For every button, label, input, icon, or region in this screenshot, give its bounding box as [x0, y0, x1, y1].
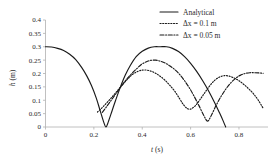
y-tick-label: 0.2 — [32, 70, 41, 78]
series-line — [46, 47, 226, 127]
y-tick-label: 0 — [38, 123, 42, 131]
x-axis-title: t(s) — [151, 145, 164, 154]
y-tick-label: 0.4 — [32, 16, 41, 24]
y-tick-label: 0.3 — [32, 43, 41, 51]
y-tick-label: 0.1 — [32, 97, 41, 105]
y-axis-title-group: h(m) — [8, 69, 17, 86]
legend-label: Analytical — [183, 8, 214, 17]
series-line — [98, 70, 264, 112]
axes-group — [43, 20, 268, 130]
x-tick-label: 0 — [44, 131, 48, 139]
chart-canvas: 00.050.10.150.20.250.30.350.4 00.20.40.6… — [0, 0, 273, 159]
y-tick-label: 0.05 — [29, 110, 42, 118]
chart-legend: AnalyticalΔx = 0.1 mΔx = 0.05 m — [160, 8, 221, 40]
x-tick-label: 0.8 — [235, 131, 244, 139]
series-line — [102, 60, 263, 121]
x-tick-label: 0.6 — [186, 131, 195, 139]
y-tick-label: 0.15 — [29, 83, 42, 91]
y-tick-label: 0.25 — [29, 57, 42, 65]
chart-figure: 00.050.10.150.20.250.30.350.4 00.20.40.6… — [0, 0, 273, 159]
x-tick-label: 0.4 — [138, 131, 147, 139]
y-tick-label: 0.35 — [29, 30, 42, 38]
legend-label: Δx = 0.05 m — [183, 31, 221, 40]
x-tick-label: 0.2 — [89, 131, 98, 139]
y-axis-tick-labels: 00.050.10.150.20.250.30.350.4 — [29, 16, 42, 131]
x-axis-title-group: t(s) — [151, 145, 164, 154]
legend-label: Δx = 0.1 m — [183, 19, 217, 28]
series-group — [46, 47, 264, 127]
x-axis-tick-labels: 00.20.40.60.8 — [44, 131, 244, 139]
y-axis-title: h(m) — [8, 69, 17, 86]
